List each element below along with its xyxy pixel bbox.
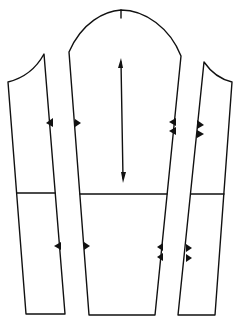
notch-icon	[157, 243, 163, 251]
sleeve-pattern-diagram	[0, 0, 239, 325]
arrow-down-icon	[121, 172, 126, 183]
right-panel	[178, 62, 232, 315]
center-panel	[69, 10, 181, 315]
notch-icon	[186, 244, 192, 252]
notch-icon	[197, 130, 204, 138]
notch-icon	[75, 119, 81, 127]
arrow-up-icon	[118, 58, 123, 68]
notch-icon	[169, 118, 176, 126]
notch-icon	[84, 242, 90, 250]
grainline	[121, 62, 123, 178]
notch-icon	[54, 242, 61, 250]
left-panel	[8, 54, 65, 314]
notch-icon	[186, 254, 192, 262]
notch-icon	[197, 120, 204, 129]
